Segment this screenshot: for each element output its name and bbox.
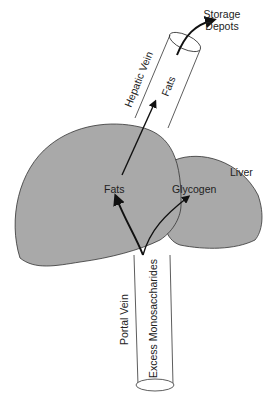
storage-depots-label-1: Storage (204, 8, 241, 20)
liver-metabolism-diagram: Storage Depots Hepatic Vein Fats Liver F… (0, 0, 269, 395)
liver-label: Liver (230, 166, 253, 178)
storage-depots-label-2: Depots (205, 20, 238, 32)
hepatic-vein-label: Hepatic Vein (122, 49, 155, 108)
portal-vein-label: Portal Vein (118, 294, 130, 345)
fats-liver-label: Fats (104, 183, 124, 195)
liver-left-lobe (15, 124, 181, 266)
diagram-svg: Storage Depots Hepatic Vein Fats Liver F… (0, 0, 269, 395)
fats-vein-label: Fats (159, 74, 178, 97)
glycogen-label: Glycogen (172, 183, 217, 195)
excess-monosaccharides-label: Excess Monosaccharides (147, 259, 159, 378)
